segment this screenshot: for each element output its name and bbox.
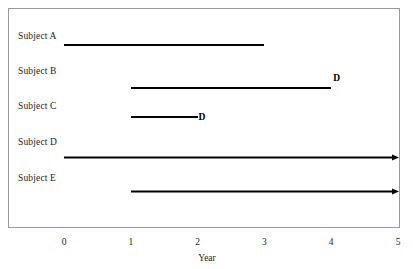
x-tick-label-4: 4 [329, 237, 334, 247]
x-tick-label-3: 3 [262, 237, 267, 247]
arrow-head-icon [392, 188, 399, 194]
subject-label-b: Subject B [18, 66, 57, 76]
timeline-bar-subject-d [64, 156, 393, 158]
subject-label-c: Subject C [18, 101, 57, 111]
timeline-arrow-subject-d [64, 153, 398, 162]
x-tick-label-0: 0 [62, 237, 67, 247]
x-tick-label-5: 5 [396, 237, 401, 247]
x-axis-title: Year [198, 253, 216, 263]
timeline-bar-subject-e [131, 190, 393, 192]
subject-label-e: Subject E [18, 173, 56, 183]
timeline-bar-subject-b [131, 87, 331, 89]
subject-label-a: Subject A [18, 31, 57, 41]
timeline-chart-figure: Subject A Subject B Subject C Subject D … [0, 0, 413, 269]
x-tick-label-1: 1 [128, 237, 133, 247]
timeline-bar-subject-c [131, 116, 198, 118]
x-tick-label-2: 2 [195, 237, 200, 247]
event-marker-subject-b: D [333, 73, 340, 83]
arrow-head-icon [392, 154, 399, 160]
timeline-bar-subject-a [64, 44, 264, 46]
timeline-arrow-subject-e [131, 187, 398, 196]
subject-label-d: Subject D [18, 137, 57, 147]
event-marker-subject-c: D [199, 112, 206, 122]
